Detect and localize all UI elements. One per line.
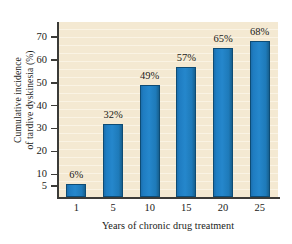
bar-25 [250, 41, 270, 197]
bar-15 [176, 67, 196, 198]
bar-value-label-5: 32% [93, 110, 133, 121]
y-axis-tick-label-40: 40 [19, 101, 47, 112]
y-axis-tick-label-10: 10 [19, 169, 47, 180]
x-axis-line [57, 197, 280, 199]
y-axis-tick-60 [51, 59, 58, 61]
bar-5 [103, 124, 123, 197]
y-axis-tick-label-50: 50 [19, 78, 47, 89]
x-axis-tick-label-25: 25 [245, 203, 275, 214]
x-axis-tick-label-10: 10 [135, 203, 165, 214]
x-axis-tick-label-15: 15 [171, 203, 201, 214]
y-axis-tick-label-30: 30 [19, 123, 47, 134]
y-axis-tick-40 [51, 105, 58, 107]
bar-value-label-1: 6% [56, 170, 96, 181]
bar-20 [213, 48, 233, 197]
bar-value-label-15: 57% [166, 53, 206, 64]
y-axis-tick-label-60: 60 [19, 55, 47, 66]
x-axis-tick-label-20: 20 [208, 203, 238, 214]
chart-figure: Cumulative incidence of tardive dyskines… [0, 0, 292, 244]
bar-1 [66, 184, 86, 198]
y-axis-tick-50 [51, 82, 58, 84]
bar-value-label-25: 68% [240, 27, 280, 38]
bar-value-label-20: 65% [203, 34, 243, 45]
y-axis-tick-70 [51, 36, 58, 38]
x-axis-title: Years of chronic drug treatment [58, 220, 278, 231]
x-axis-tick-label-1: 1 [61, 203, 91, 214]
y-axis-tick-label-20: 20 [19, 146, 47, 157]
x-axis-tick-label-5: 5 [98, 203, 128, 214]
bar-10 [140, 85, 160, 197]
y-axis-tick-label-5: 5 [19, 181, 47, 192]
y-axis-tick-20 [51, 151, 58, 153]
y-axis-tick-30 [51, 128, 58, 130]
bar-value-label-10: 49% [130, 71, 170, 82]
y-axis-tick-5 [51, 185, 58, 187]
y-axis-tick-label-70: 70 [19, 32, 47, 43]
